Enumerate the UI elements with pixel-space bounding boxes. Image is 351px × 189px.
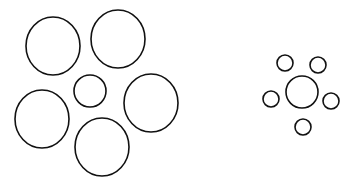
ebbinghaus-diagram bbox=[0, 0, 351, 189]
background bbox=[0, 0, 351, 189]
